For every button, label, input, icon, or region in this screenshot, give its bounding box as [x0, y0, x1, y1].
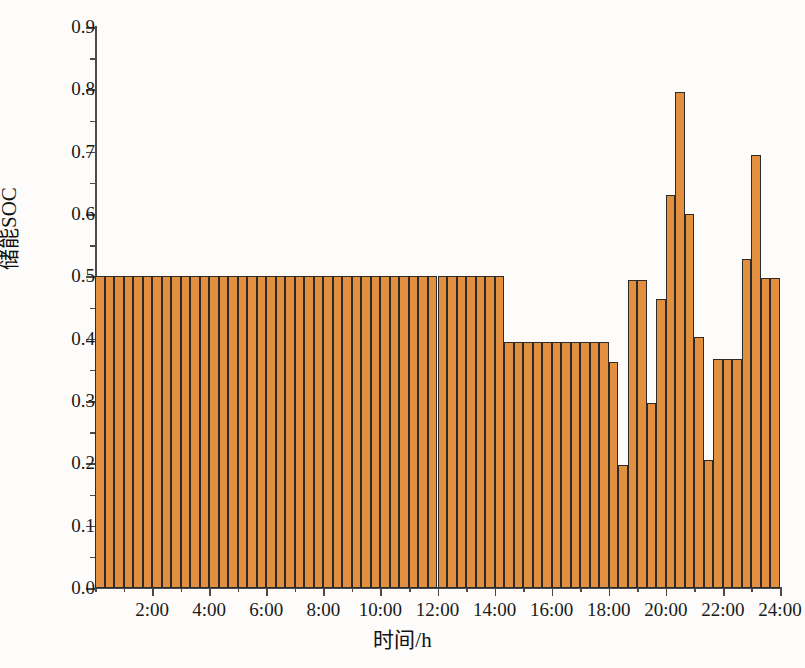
- bar: [114, 276, 124, 588]
- bar: [399, 276, 409, 588]
- chart-figure: 0.00.10.20.30.40.50.60.70.80.9 2:004:006…: [0, 0, 805, 668]
- bar: [542, 342, 552, 588]
- y-tick-minor: [90, 183, 95, 185]
- bar: [133, 276, 143, 588]
- x-tick-label: 22:00: [701, 599, 744, 621]
- x-tick-minor: [352, 588, 354, 592]
- bar: [342, 276, 352, 588]
- bar: [200, 276, 210, 588]
- bar: [713, 359, 723, 588]
- bar: [571, 342, 581, 588]
- bar: [257, 276, 267, 588]
- bar: [476, 276, 486, 588]
- bar: [485, 276, 495, 588]
- bar: [380, 276, 390, 588]
- bar: [333, 276, 343, 588]
- bar: [533, 342, 543, 588]
- bar: [580, 342, 590, 588]
- bar: [770, 278, 780, 588]
- bar: [723, 359, 733, 588]
- x-tick-minor: [238, 588, 240, 592]
- x-tick-minor: [95, 588, 97, 592]
- x-tick-minor: [181, 588, 183, 592]
- x-tick-label: 8:00: [306, 599, 340, 621]
- x-tick-major: [152, 588, 154, 596]
- bar: [732, 359, 742, 588]
- bar: [390, 276, 400, 588]
- bar: [561, 342, 571, 588]
- x-tick-minor: [637, 588, 639, 592]
- x-tick-major: [209, 588, 211, 596]
- bar: [304, 276, 314, 588]
- bar: [314, 276, 324, 588]
- y-tick-label: 0.4: [71, 328, 95, 350]
- bar: [409, 276, 419, 588]
- bar: [666, 195, 676, 588]
- bar: [371, 276, 381, 588]
- bar: [228, 276, 238, 588]
- x-tick-label: 12:00: [416, 599, 459, 621]
- bar: [751, 155, 761, 588]
- x-tick-major: [552, 588, 554, 596]
- bar: [105, 276, 115, 588]
- bar: [447, 276, 457, 588]
- bar: [609, 362, 619, 588]
- y-tick-label: 0.0: [71, 577, 95, 599]
- bar: [761, 278, 771, 588]
- bar: [618, 465, 628, 588]
- y-tick-label: 0.9: [71, 16, 95, 38]
- bar-series: [95, 27, 780, 588]
- x-tick-label: 2:00: [135, 599, 169, 621]
- bar: [352, 276, 362, 588]
- x-tick-minor: [295, 588, 297, 592]
- y-tick-label: 0.3: [71, 390, 95, 412]
- x-tick-label: 20:00: [644, 599, 687, 621]
- y-tick-minor: [90, 308, 95, 310]
- x-tick-minor: [409, 588, 411, 592]
- bar: [523, 342, 533, 588]
- x-tick-minor: [523, 588, 525, 592]
- y-tick-label: 0.6: [71, 203, 95, 225]
- plot-area: 0.00.10.20.30.40.50.60.70.80.9 2:004:006…: [95, 27, 780, 588]
- x-tick-major: [666, 588, 668, 596]
- x-tick-label: 10:00: [359, 599, 402, 621]
- x-tick-minor: [124, 588, 126, 592]
- x-tick-label: 24:00: [758, 599, 801, 621]
- bar: [685, 214, 695, 588]
- x-tick-label: 14:00: [473, 599, 516, 621]
- bar: [637, 280, 647, 588]
- bar: [466, 276, 476, 588]
- bar: [514, 342, 524, 588]
- y-tick-minor: [90, 432, 95, 434]
- bar: [694, 337, 704, 588]
- x-tick-major: [438, 588, 440, 596]
- bar: [438, 276, 448, 588]
- bar: [656, 299, 666, 588]
- bar: [742, 259, 752, 588]
- bar: [162, 276, 172, 588]
- bar: [247, 276, 257, 588]
- x-tick-major: [723, 588, 725, 596]
- y-axis-title: 储能SOC: [0, 187, 22, 270]
- x-tick-major: [780, 588, 782, 596]
- bar: [266, 276, 276, 588]
- bar: [124, 276, 134, 588]
- bar: [675, 92, 685, 588]
- y-tick-label: 0.2: [71, 452, 95, 474]
- bar: [209, 276, 219, 588]
- bar: [190, 276, 200, 588]
- y-tick-minor: [90, 245, 95, 247]
- bar: [295, 276, 305, 588]
- x-tick-label: 4:00: [192, 599, 226, 621]
- x-tick-label: 6:00: [249, 599, 283, 621]
- x-tick-major: [266, 588, 268, 596]
- bar: [181, 276, 191, 588]
- y-tick-minor: [90, 58, 95, 60]
- x-tick-label: 16:00: [530, 599, 573, 621]
- y-tick-label: 0.1: [71, 515, 95, 537]
- y-tick-label: 0.7: [71, 141, 95, 163]
- bar: [418, 276, 428, 588]
- bar: [95, 276, 105, 588]
- x-tick-major: [323, 588, 325, 596]
- x-tick-major: [380, 588, 382, 596]
